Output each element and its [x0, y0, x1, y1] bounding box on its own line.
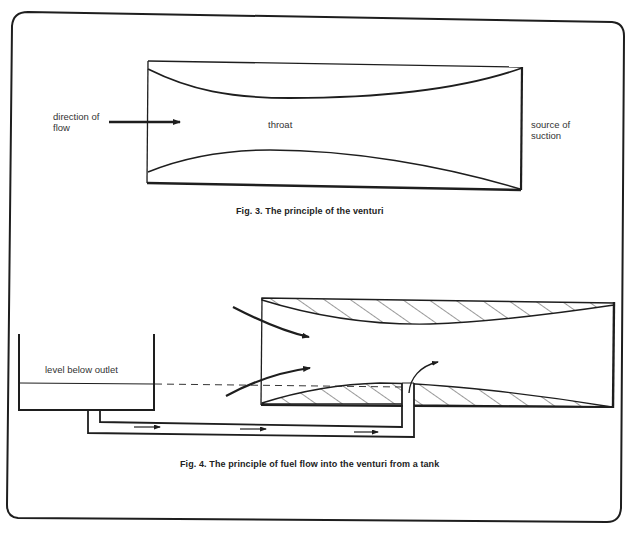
fuel-level-line [20, 383, 153, 384]
venturi-upper-wall [262, 298, 614, 324]
tank-level-label: level below outlet [45, 364, 118, 375]
direction-label-line1: direction of [53, 111, 99, 122]
source-of-suction-label: source of suction [531, 119, 570, 141]
air-inflow-arrow-lower [226, 368, 310, 396]
air-inflow-arrow-upper [233, 307, 309, 337]
fig3-venturi [109, 61, 522, 190]
fig3-caption: Fig. 3. The principle of the venturi [236, 206, 384, 216]
fig4-caption: Fig. 4. The principle of fuel flow into … [180, 459, 439, 469]
diagram-canvas [0, 0, 629, 536]
direction-label-line2: flow [53, 122, 99, 133]
venturi-lower-wall [262, 383, 612, 407]
page-border [7, 12, 624, 522]
throat-label: throat [268, 119, 292, 130]
suction-label-line1: source of [531, 119, 570, 130]
direction-of-flow-label: direction of flow [53, 111, 99, 133]
suction-label-line2: suction [531, 130, 570, 141]
